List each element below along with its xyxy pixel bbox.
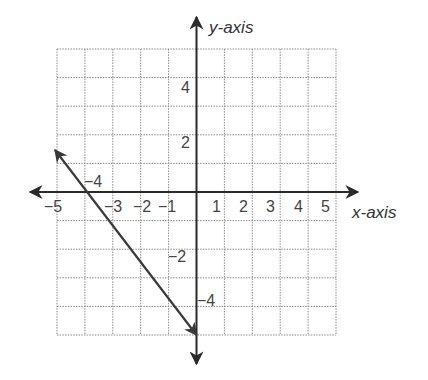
x-intercept-label: −4 [84, 173, 102, 190]
x-tick-label: 1 [212, 198, 221, 215]
x-tick-label: −1 [158, 198, 176, 215]
x-tick-label: −3 [104, 198, 122, 215]
x-tick-label: 4 [294, 198, 303, 215]
plotted-line [55, 150, 197, 335]
y-tick-label: 4 [181, 79, 190, 96]
y-tick-label: −4 [197, 292, 215, 309]
y-tick-label: −2 [168, 248, 186, 265]
x-axis-title: x-axis [351, 203, 397, 222]
x-tick-label: −5 [44, 198, 62, 215]
y-tick-label: 2 [181, 134, 190, 151]
y-axis-title: y-axis [208, 18, 254, 37]
x-tick-label: 5 [321, 198, 330, 215]
x-tick-label: 2 [239, 198, 248, 215]
x-tick-label: 3 [266, 198, 275, 215]
x-tick-label: −2 [133, 198, 151, 215]
coordinate-plane: y-axis x-axis −5 −3 −2 −1 1 2 3 4 5 −4 4… [0, 0, 428, 380]
